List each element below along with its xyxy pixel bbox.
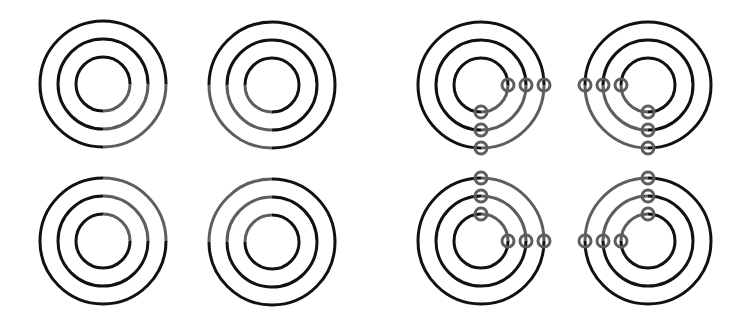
highlighted-quadrant-arc <box>245 215 272 242</box>
diagram-canvas <box>0 0 753 318</box>
highlighted-quadrant-arc <box>481 196 526 241</box>
highlighted-quadrant-arc <box>103 84 130 111</box>
highlighted-quadrant-arc <box>227 197 272 242</box>
highlighted-quadrant-arc <box>103 196 148 241</box>
target-diagram <box>418 22 550 154</box>
highlighted-quadrant-arc <box>603 85 648 130</box>
highlighted-quadrant-arc <box>603 196 648 241</box>
target-diagram <box>209 179 335 305</box>
target-diagram <box>40 178 166 304</box>
highlighted-quadrant-arc <box>103 214 130 241</box>
highlighted-quadrant-arc <box>103 84 148 129</box>
target-diagram <box>418 172 550 304</box>
highlighted-quadrant-arc <box>481 85 526 130</box>
target-diagram <box>579 22 711 154</box>
target-diagram <box>209 22 335 148</box>
target-diagram <box>579 172 711 304</box>
highlighted-quadrant-arc <box>245 85 272 112</box>
target-diagram <box>40 21 166 147</box>
highlighted-quadrant-arc <box>227 85 272 130</box>
right-target-group <box>418 22 711 304</box>
left-target-group <box>40 21 335 305</box>
